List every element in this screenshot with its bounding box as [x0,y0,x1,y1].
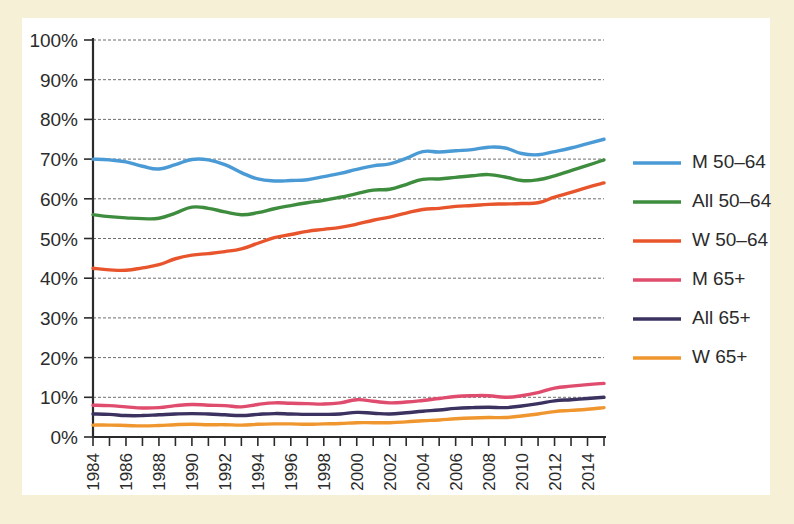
y-axis-tick-label: 90% [40,70,78,91]
y-axis-tick-label: 80% [40,109,78,130]
y-axis-tick-label: 40% [40,268,78,289]
x-axis-tick-label: 1988 [150,453,169,491]
legend-item-label: W 50–64 [692,229,768,250]
x-axis-tick-label: 2000 [348,453,367,491]
y-axis-tick-label: 20% [40,348,78,369]
series-line [93,139,604,181]
data-series-group [93,139,604,426]
y-axis-tick-label: 50% [40,229,78,250]
legend-item-label: M 65+ [692,268,745,289]
x-axis-tick-label: 1994 [249,453,268,491]
y-axis-tick-label: 30% [40,308,78,329]
y-axis-tick-label: 100% [29,30,78,51]
y-tick-marks-group [84,40,93,437]
x-tick-marks-group [93,437,604,446]
x-axis-tick-label: 2006 [447,453,466,491]
y-axis-tick-label: 60% [40,189,78,210]
chart-page: 0%10%20%30%40%50%60%70%80%90%100% 198419… [0,0,794,524]
line-chart: 0%10%20%30%40%50%60%70%80%90%100% 198419… [0,0,794,524]
x-axis-tick-label: 2012 [546,453,565,491]
x-axis-tick-label: 2008 [480,453,499,491]
legend-item-label: All 50–64 [692,190,772,211]
legend-item-label: All 65+ [692,307,751,328]
y-axis-tick-label: 70% [40,149,78,170]
x-axis-tick-label: 2010 [513,453,532,491]
legend-item-label: W 65+ [692,346,747,367]
chart-legend: M 50–64All 50–64W 50–64M 65+All 65+W 65+ [633,151,772,367]
x-axis-tick-label: 2004 [414,453,433,491]
y-axis-tick-label: 10% [40,387,78,408]
gridlines-group [93,40,604,397]
series-line [93,408,604,426]
y-axis-tick-label: 0% [51,427,79,448]
x-axis-tick-label: 1990 [183,453,202,491]
x-axis-tick-label: 1992 [216,453,235,491]
y-axis-labels-group: 0%10%20%30%40%50%60%70%80%90%100% [29,30,78,448]
x-axis-labels-group: 1984198619881990199219941996199820002002… [84,453,598,491]
x-axis-tick-label: 2014 [579,453,598,491]
legend-item-label: M 50–64 [692,151,766,172]
x-axis-tick-label: 1996 [282,453,301,491]
x-axis-tick-label: 1984 [84,453,103,491]
x-axis-tick-label: 2002 [381,453,400,491]
series-line [93,160,604,219]
x-axis-tick-label: 1986 [117,453,136,491]
x-axis-tick-label: 1998 [315,453,334,491]
